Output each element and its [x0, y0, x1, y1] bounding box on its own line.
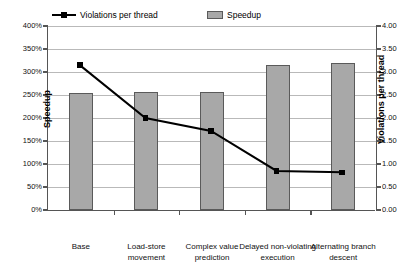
y-axis-right-tick — [376, 209, 381, 210]
legend-label-speedup: Speedup — [227, 10, 261, 20]
y-axis-left-label: 400% — [23, 22, 42, 30]
x-axis-tick — [179, 210, 180, 215]
legend-item-speedup: Speedup — [207, 10, 261, 20]
x-axis-tick — [245, 210, 246, 215]
y-axis-right-tick — [376, 48, 381, 49]
line-path — [80, 65, 342, 172]
legend-label-violations-per-thread: Violations per thread — [80, 10, 158, 20]
line-path-svg — [47, 26, 375, 210]
line-marker — [339, 170, 345, 176]
line-series-swatch-icon — [52, 10, 76, 20]
y-axis-right-tick — [376, 25, 381, 26]
y-axis-right-tick — [376, 163, 381, 164]
y-axis-left-label: 150% — [23, 137, 42, 145]
chart-legend: Violations per thread Speedup — [0, 8, 418, 26]
y-axis-right-label: 1.00 — [382, 160, 397, 168]
y-axis-right-label: 0.50 — [382, 183, 397, 191]
line-series-violations-per-thread — [47, 26, 375, 210]
y-axis-left-label: 300% — [23, 68, 42, 76]
line-marker — [77, 62, 83, 68]
y-axis-left-label: 50% — [27, 183, 42, 191]
y-axis-right-label: 4.00 — [382, 22, 397, 30]
y-axis-left-label: 100% — [23, 160, 42, 168]
y-axis-left-label: 0% — [31, 206, 42, 214]
line-marker — [143, 115, 149, 121]
y-axis-left-label: 350% — [23, 45, 42, 53]
y-axis-right-label: 3.50 — [382, 45, 397, 53]
legend-item-violations-per-thread: Violations per thread — [52, 10, 158, 20]
line-marker — [208, 128, 214, 134]
line-marker — [274, 168, 280, 174]
x-axis-tick — [310, 210, 311, 215]
bar-series-swatch-icon — [207, 11, 223, 19]
y-axis-right-title: Violations per thread — [376, 58, 386, 144]
y-axis-right-tick — [376, 186, 381, 187]
y-axis-left-label: 200% — [23, 114, 42, 122]
y-axis-left-label: 250% — [23, 91, 42, 99]
x-axis-label: Alternating branch descent — [304, 242, 382, 263]
x-axis-line — [47, 210, 375, 211]
y-axis-right-label: 0.00 — [382, 206, 397, 214]
x-axis-tick — [114, 210, 115, 215]
